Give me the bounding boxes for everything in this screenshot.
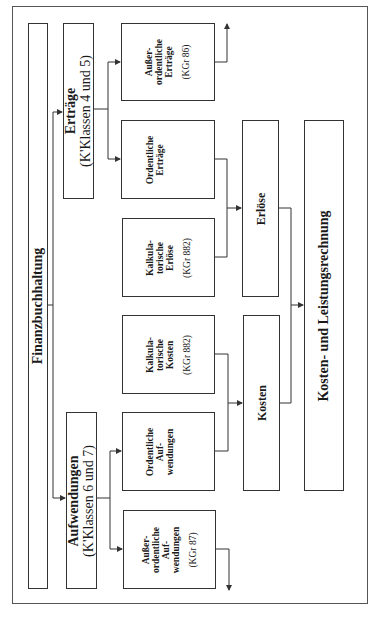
connector-lines — [0, 0, 375, 620]
